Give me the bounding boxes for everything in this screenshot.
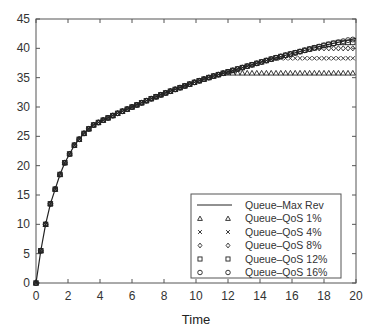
x-tick-label: 12: [221, 289, 235, 303]
y-tick-label: 0: [23, 276, 30, 290]
y-tick-label: 20: [17, 159, 31, 173]
legend: Queue–Max RevQueue–QoS 1%Queue–QoS 4%Que…: [191, 194, 341, 278]
x-tick-label: 0: [33, 289, 40, 303]
y-tick-label: 5: [23, 247, 30, 261]
line-chart: 02468101214161820051015202530354045 Time…: [0, 0, 376, 336]
x-tick-label: 16: [285, 289, 299, 303]
legend-label: Queue–QoS 16%: [245, 266, 327, 278]
x-tick-label: 6: [129, 289, 136, 303]
x-axis-title: Time: [182, 312, 210, 327]
x-tick-label: 2: [65, 289, 72, 303]
legend-label: Queue–QoS 4%: [245, 226, 321, 238]
y-tick-label: 30: [17, 100, 31, 114]
x-tick-label: 8: [161, 289, 168, 303]
x-tick-label: 18: [317, 289, 331, 303]
x-tick-label: 10: [189, 289, 203, 303]
legend-label: Queue–QoS 8%: [245, 239, 321, 251]
legend-label: Queue–QoS 12%: [245, 253, 327, 265]
y-tick-label: 35: [17, 71, 31, 85]
y-tick-label: 40: [17, 41, 31, 55]
y-tick-label: 25: [17, 129, 31, 143]
y-tick-label: 45: [17, 12, 31, 26]
legend-label: Queue–QoS 1%: [245, 212, 321, 224]
y-tick-label: 10: [17, 217, 31, 231]
x-tick-label: 14: [253, 289, 267, 303]
x-tick-label: 20: [349, 289, 363, 303]
legend-label: Queue–Max Rev: [245, 199, 325, 211]
x-tick-label: 4: [97, 289, 104, 303]
y-tick-label: 15: [17, 188, 31, 202]
